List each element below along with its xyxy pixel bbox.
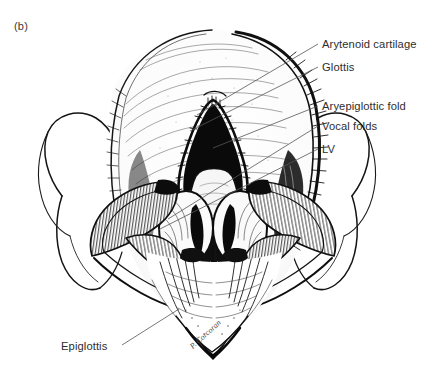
anatomical-figure: (b) Arytenoid cartilage Glottis Aryepigl… (0, 0, 436, 381)
leader-line-5 (122, 309, 179, 345)
callout-arytenoid-cartilage: Arytenoid cartilage (322, 39, 417, 50)
callout-vocal-folds: Vocal folds (322, 121, 377, 132)
callout-glottis: Glottis (322, 62, 354, 73)
leader-line-2 (213, 106, 318, 148)
leader-line-1 (190, 67, 318, 131)
callout-aryepiglottic-fold: Aryepiglottic fold (322, 101, 406, 112)
callout-epiglottis: Epiglottis (61, 341, 107, 352)
panel-label: (b) (14, 20, 28, 32)
leader-line-4 (158, 149, 318, 230)
leader-line-0 (197, 44, 318, 115)
leader-line-3 (168, 126, 318, 219)
callout-lv: LV (322, 144, 335, 155)
